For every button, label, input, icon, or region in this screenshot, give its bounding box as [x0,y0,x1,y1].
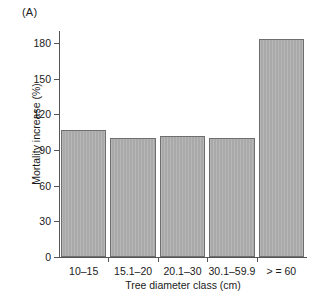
bar [61,130,106,257]
x-tick-label: 15.1–20 [114,265,152,277]
x-tick-mark [207,257,208,262]
y-tick-mark [54,150,59,151]
bar [160,136,205,257]
y-tick-mark [54,186,59,187]
figure-panel-a: (A) Mortality increase (%) Tree diameter… [0,0,321,302]
y-tick-label: 30 [39,215,51,227]
y-tick-label: 90 [39,144,51,156]
x-tick-mark [108,257,109,262]
x-tick-label: 20.1–30 [164,265,202,277]
y-tick-label: 150 [33,73,51,85]
x-tick-label: 10–15 [69,265,98,277]
bar [259,39,304,257]
panel-label: (A) [22,6,37,18]
y-tick-mark [54,221,59,222]
x-tick-label: 30.1–59.9 [209,265,256,277]
y-tick-mark [54,257,59,258]
y-tick-mark [54,43,59,44]
y-tick-label: 120 [33,108,51,120]
y-tick-label: 180 [33,37,51,49]
plot-area: 030609012015018010–1515.1–2020.1–3030.1–… [59,31,306,257]
y-tick-mark [54,79,59,80]
x-axis-line [59,257,307,258]
y-tick-label: 0 [45,251,51,263]
bar [110,138,155,257]
x-tick-label: > = 60 [266,265,296,277]
x-axis-title: Tree diameter class (cm) [59,279,307,291]
y-tick-label: 60 [39,180,51,192]
x-tick-mark [257,257,258,262]
bar [209,138,254,257]
x-tick-mark [158,257,159,262]
y-tick-mark [54,114,59,115]
